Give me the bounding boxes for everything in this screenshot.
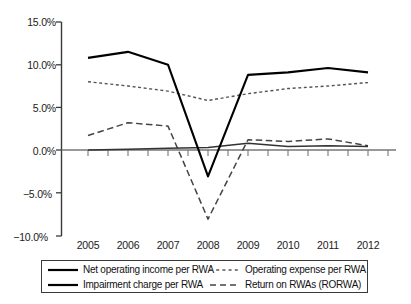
legend-label: Operating expense per RWA bbox=[245, 264, 366, 275]
chart-figure: 15.0% 10.0% 5.0% 0.0% −5.0% −10.0% 2005 … bbox=[0, 0, 411, 304]
legend-line-dotted-icon bbox=[210, 265, 240, 275]
legend-label: Net operating income per RWA bbox=[83, 264, 214, 275]
legend-row: Impairment charge per RWA Return on RWAs… bbox=[42, 277, 367, 292]
series-line-return-on-rwas bbox=[88, 123, 368, 219]
series-line-impairment-charge-per-rwa bbox=[88, 143, 368, 150]
series-line-net-operating-income-per-rwa bbox=[88, 52, 368, 177]
legend-item-return-on-rwas: Return on RWAs (RORWA) bbox=[210, 277, 361, 292]
legend-label: Impairment charge per RWA bbox=[83, 279, 203, 290]
legend-item-operating-expense-per-rwa: Operating expense per RWA bbox=[210, 262, 366, 277]
legend-label: Return on RWAs (RORWA) bbox=[245, 279, 361, 290]
legend-row: Net operating income per RWA Operating e… bbox=[42, 262, 367, 277]
chart-canvas bbox=[0, 0, 411, 252]
legend-line-dashed-icon bbox=[210, 280, 240, 290]
series-line-operating-expense-per-rwa bbox=[88, 82, 368, 101]
legend-line-solid-icon bbox=[48, 265, 78, 275]
legend-line-solid-icon bbox=[48, 280, 78, 290]
plot-area: 15.0% 10.0% 5.0% 0.0% −5.0% −10.0% 2005 … bbox=[0, 0, 411, 252]
x-axis-ticks bbox=[88, 150, 388, 156]
legend-item-impairment-charge-per-rwa: Impairment charge per RWA bbox=[48, 277, 203, 292]
chart-legend: Net operating income per RWA Operating e… bbox=[41, 260, 368, 293]
y-axis-ticks bbox=[56, 22, 62, 236]
legend-item-net-operating-income-per-rwa: Net operating income per RWA bbox=[48, 262, 214, 277]
